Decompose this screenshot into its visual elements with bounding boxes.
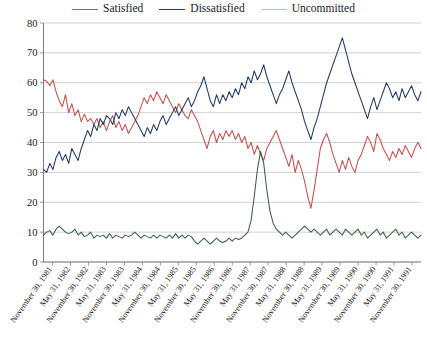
y-tick-label: 80 [27, 18, 38, 29]
gridlines [40, 23, 421, 262]
series-line-dissatisfied [44, 38, 422, 172]
y-tick-label: 20 [27, 197, 38, 208]
y-tick-label: 30 [27, 167, 38, 178]
series-line-satisfied [44, 80, 422, 208]
y-tick-label: 70 [27, 47, 38, 58]
y-tick-label: 0 [32, 257, 37, 268]
plot-area: 01020304050607080 November 30, 1981May 3… [0, 0, 427, 346]
y-tick-label: 40 [27, 137, 38, 148]
y-tick-label: 50 [27, 107, 38, 118]
y-tick-label: 10 [27, 227, 38, 238]
series-line-uncommitted [44, 151, 422, 244]
y-axis-tick-labels: 01020304050607080 [27, 18, 38, 268]
line-chart: Satisfied Dissatisfied Uncommitted 01020… [0, 0, 427, 346]
x-axis-tick-labels: November 30, 1981May 31, 1982November 30… [9, 264, 414, 324]
y-tick-label: 60 [27, 77, 38, 88]
data-series-lines [44, 38, 422, 244]
